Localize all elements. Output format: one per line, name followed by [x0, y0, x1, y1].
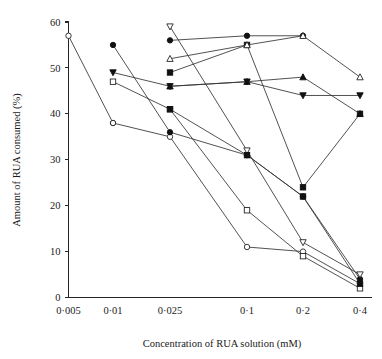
data-point-open-circle	[110, 120, 115, 125]
y-axis-ticks: 0102030405060	[50, 17, 69, 304]
data-point-open-square	[110, 79, 115, 84]
data-point-open-triangle-up	[357, 74, 363, 80]
series-polyline	[113, 82, 360, 289]
y-tick-label: 40	[50, 108, 61, 119]
x-tick-label: 0·2	[296, 305, 310, 316]
data-point-open-circle	[244, 244, 249, 249]
data-point-filled-square	[167, 107, 172, 112]
data-point-open-circle	[66, 33, 71, 38]
series-polyline	[170, 36, 360, 77]
series-polyline	[170, 77, 360, 114]
data-point-filled-circle	[244, 33, 249, 38]
y-tick-label: 20	[50, 200, 61, 211]
line-chart: 0102030405060 0·0050·010·0250·10·20·4 Co…	[0, 0, 382, 359]
y-tick-label: 0	[55, 292, 60, 303]
series-filled-circle-high	[167, 33, 305, 43]
data-point-filled-square	[244, 152, 249, 157]
data-point-filled-square	[300, 185, 305, 190]
x-axis-title: Concentration of RUA solution (mM)	[143, 338, 302, 350]
chart-series-group	[66, 24, 363, 291]
series-polyline	[113, 73, 360, 96]
series-open-circle-a	[66, 33, 116, 126]
series-open-triangle-up	[167, 32, 363, 79]
data-point-filled-circle	[167, 130, 172, 135]
series-polyline	[113, 123, 360, 284]
series-open-circle-b	[110, 120, 362, 286]
series-polyline	[69, 36, 114, 123]
data-point-filled-circle	[167, 38, 172, 43]
x-tick-label: 0·1	[240, 305, 254, 316]
series-polyline	[170, 45, 360, 187]
x-tick-label: 0·025	[158, 305, 183, 316]
data-point-open-triangle-down	[300, 240, 306, 246]
y-tick-label: 60	[50, 17, 61, 28]
data-point-open-square	[244, 208, 249, 213]
x-tick-label: 0·005	[56, 305, 81, 316]
data-point-filled-triangle-up	[300, 74, 306, 80]
data-point-open-triangle-down	[167, 24, 173, 30]
data-point-filled-square	[167, 70, 172, 75]
series-polyline	[170, 109, 360, 283]
y-tick-label: 30	[50, 154, 61, 165]
series-filled-square	[167, 42, 362, 190]
series-filled-circle	[110, 42, 362, 282]
chart-container: 0102030405060 0·0050·010·0250·10·20·4 Co…	[0, 0, 382, 359]
data-point-filled-square	[357, 281, 362, 286]
data-point-open-square	[300, 253, 305, 258]
chart-axes	[69, 22, 373, 298]
x-axis-ticks: 0·0050·010·0250·10·20·4	[56, 305, 367, 316]
series-polyline	[170, 36, 303, 41]
y-axis-title: Amount of RUA consumed (%)	[11, 93, 23, 227]
x-tick-label: 0·4	[353, 305, 368, 316]
data-point-filled-circle	[110, 42, 115, 47]
series-filled-triangle-down	[110, 70, 363, 99]
series-open-triangle-down	[167, 24, 363, 278]
y-tick-label: 10	[50, 246, 61, 257]
x-tick-label: 0·01	[103, 305, 122, 316]
data-point-filled-square	[300, 194, 305, 199]
series-open-square	[110, 79, 362, 291]
y-tick-label: 50	[50, 63, 61, 74]
